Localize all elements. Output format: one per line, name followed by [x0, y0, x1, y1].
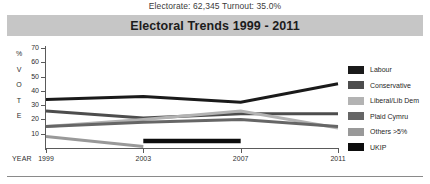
- legend-item[interactable]: Plaid Cymru: [348, 109, 426, 125]
- x-axis-tick-label: 1999: [26, 155, 66, 162]
- legend-swatch-icon: [348, 81, 364, 89]
- legend-swatch-icon: [348, 66, 364, 74]
- legend-item[interactable]: Conservative: [348, 78, 426, 94]
- legend-item-label: Plaid Cymru: [370, 113, 408, 120]
- footer-divider: [7, 176, 423, 177]
- chart-figure: Electorate: 62,345 Turnout: 35.0% Electo…: [0, 0, 430, 184]
- legend-swatch-icon: [348, 112, 364, 120]
- legend-item[interactable]: Labour: [348, 62, 426, 78]
- y-axis-tick: [41, 62, 45, 63]
- legend-item-label: Conservative: [370, 82, 411, 89]
- y-axis-tick: [41, 134, 45, 135]
- x-axis-tick: [46, 148, 47, 153]
- legend-item[interactable]: UKIP: [348, 140, 426, 156]
- y-axis-tick: [41, 48, 45, 49]
- x-axis-tick: [143, 148, 144, 153]
- legend-swatch-icon: [348, 143, 364, 151]
- chart-title: Electoral Trends 1999 - 2011: [130, 19, 300, 33]
- chart-title-bar: Electoral Trends 1999 - 2011: [7, 15, 423, 36]
- x-axis-tick-label: 2011: [318, 155, 358, 162]
- series-line-labour: [46, 84, 338, 103]
- x-axis-tick: [338, 148, 339, 153]
- legend-item[interactable]: Liberal/Lib Dem: [348, 93, 426, 109]
- legend-swatch-icon: [348, 128, 364, 136]
- x-axis-tick-label: 2007: [221, 155, 261, 162]
- legend-item[interactable]: Others >5%: [348, 124, 426, 140]
- legend-item-label: Others >5%: [370, 128, 407, 135]
- x-axis-tick-label: 2003: [123, 155, 163, 162]
- legend-item-label: Labour: [370, 66, 392, 73]
- y-axis-tick: [41, 119, 45, 120]
- y-axis-tick: [41, 105, 45, 106]
- series-line-others-5: [46, 137, 143, 147]
- electorate-turnout-subtitle: Electorate: 62,345 Turnout: 35.0%: [0, 1, 430, 11]
- y-axis-tick: [41, 91, 45, 92]
- x-axis-tick: [241, 148, 242, 153]
- legend-item-label: UKIP: [370, 144, 386, 151]
- legend-item-label: Liberal/Lib Dem: [370, 97, 419, 104]
- chart-legend: LabourConservativeLiberal/Lib DemPlaid C…: [348, 62, 426, 155]
- y-axis-tick: [41, 77, 45, 78]
- legend-swatch-icon: [348, 97, 364, 105]
